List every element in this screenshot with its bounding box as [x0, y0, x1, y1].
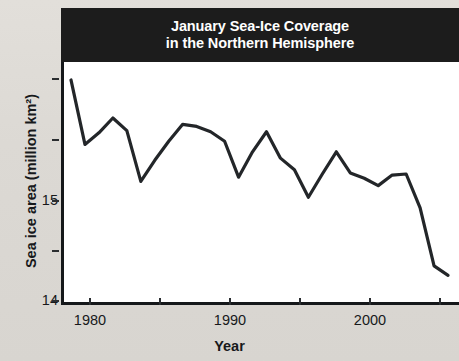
- sea-ice-line-series: [64, 62, 459, 305]
- x-tick-mark-1990: [229, 298, 231, 305]
- y-tick-mark-minor-top: [52, 78, 59, 80]
- data-polyline: [71, 80, 448, 275]
- chart-title-banner: January Sea-Ice Coverage in the Northern…: [61, 8, 459, 62]
- x-tick-mark-2005: [439, 298, 441, 305]
- x-tick-label-2000: 2000: [340, 312, 400, 328]
- x-tick-mark-1980: [89, 298, 91, 305]
- y-tick-mark-14-5: [52, 250, 59, 252]
- plot-area: [61, 62, 459, 305]
- x-tick-label-1990: 1990: [200, 312, 260, 328]
- y-tick-mark-15: [52, 200, 59, 202]
- x-tick-mark-1995: [299, 298, 301, 305]
- y-tick-mark-14: [52, 300, 59, 302]
- x-tick-mark-1985: [159, 298, 161, 305]
- y-axis-ticks: 15 14: [24, 62, 58, 305]
- x-tick-mark-2000: [369, 298, 371, 305]
- x-axis-label: Year: [0, 338, 459, 354]
- y-tick-mark-15-5: [52, 139, 59, 141]
- chart-figure: January Sea-Ice Coverage in the Northern…: [0, 0, 459, 361]
- chart-title-line-1: January Sea-Ice Coverage: [171, 18, 349, 35]
- chart-title-line-2: in the Northern Hemisphere: [166, 35, 354, 52]
- x-tick-label-1980: 1980: [60, 312, 120, 328]
